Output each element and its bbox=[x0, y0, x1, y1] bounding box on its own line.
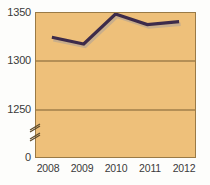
plot-svg bbox=[36, 13, 195, 157]
plot-area bbox=[35, 12, 196, 158]
x-axis-tick-2012: 2012 bbox=[164, 163, 204, 174]
y-axis-tick-0: 0 bbox=[0, 152, 31, 163]
y-axis-tick-1300: 1300 bbox=[0, 55, 31, 66]
y-axis-tick-1350: 1350 bbox=[0, 7, 31, 18]
y-axis-tick-1250: 1250 bbox=[0, 104, 31, 115]
line-chart: 1350 1300 1250 0 2008 2009 2010 2011 201… bbox=[0, 0, 210, 185]
axis-break-icon bbox=[29, 123, 43, 143]
